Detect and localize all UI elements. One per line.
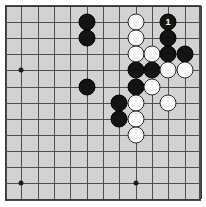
stone-black[interactable] (177, 46, 194, 63)
stone-black[interactable] (160, 30, 177, 47)
stone-white[interactable] (128, 14, 145, 31)
stone-white[interactable] (128, 46, 145, 63)
grid-line-horizontal (5, 183, 201, 184)
stone-black[interactable] (144, 62, 161, 79)
hoshi-star-point (134, 181, 139, 186)
stone-black[interactable] (160, 46, 177, 63)
grid-line-horizontal (5, 135, 201, 136)
stone-white[interactable] (144, 79, 161, 96)
grid-line-horizontal (5, 119, 201, 120)
stone-white[interactable] (128, 127, 145, 144)
stone-black[interactable] (111, 95, 128, 112)
stone-white[interactable] (128, 30, 145, 47)
stone-white[interactable] (160, 95, 177, 112)
stone-white[interactable] (144, 46, 161, 63)
hoshi-star-point (19, 68, 24, 73)
stone-white[interactable] (160, 62, 177, 79)
grid-line-horizontal (5, 87, 201, 88)
grid-line-horizontal (5, 199, 201, 200)
stone-black[interactable] (79, 30, 96, 47)
grid-line-vertical (201, 6, 202, 199)
stone-white[interactable] (177, 62, 194, 79)
stone-black-move-1[interactable]: 1 (160, 14, 177, 31)
stone-black[interactable] (79, 14, 96, 31)
grid-line-horizontal (5, 151, 201, 152)
stone-black[interactable] (111, 111, 128, 128)
board-surface[interactable]: 1 (7, 7, 199, 199)
grid-line-horizontal (5, 167, 201, 168)
stone-black[interactable] (79, 79, 96, 96)
stone-black[interactable] (128, 79, 145, 96)
board-border: 1 (5, 5, 201, 201)
stone-white[interactable] (128, 111, 145, 128)
move-number-label: 1 (161, 15, 176, 30)
hoshi-star-point (19, 181, 24, 186)
go-diagram: 1 (0, 0, 206, 207)
stone-black[interactable] (128, 62, 145, 79)
grid-line-horizontal (5, 6, 201, 7)
stone-white[interactable] (128, 95, 145, 112)
